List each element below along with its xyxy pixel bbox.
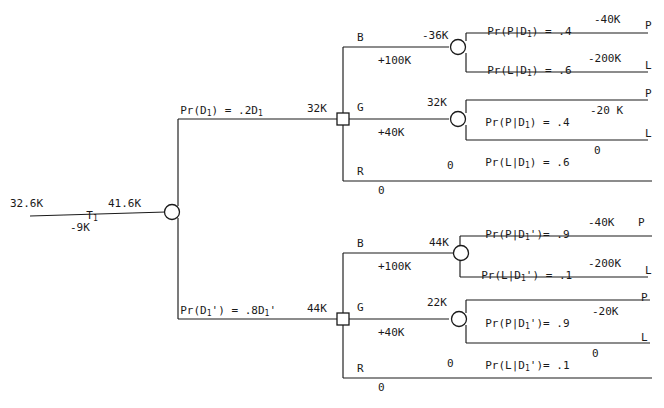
- upper-action-R-payoff: 0: [378, 185, 385, 197]
- root-left-value: 32.6K: [10, 198, 43, 210]
- upper-cn1-outcome-L-terminal: L: [645, 60, 652, 72]
- lower-cn1-outcome-L-probability: Pr(L|D1') = .1: [468, 258, 572, 282]
- lower-cn1-L-prob-suffix: ) = .1: [532, 269, 572, 282]
- upper-cn1-outcome-P-terminal: P: [645, 20, 652, 32]
- lower-action-G-label: G: [357, 302, 364, 314]
- lower-cn1-outcome-L-terminal: L: [645, 265, 652, 277]
- lower-cn1-outcome-P-terminal: P: [638, 217, 645, 229]
- lower-cn1-outcome-L-payoff: -200K: [588, 258, 621, 270]
- lower-cn2-L-prob-prefix: Pr(L|D: [485, 359, 525, 372]
- lower-cn1-P-prob-prefix: Pr(P|D: [485, 228, 525, 241]
- upper-cn2-P-prob-prefix: Pr(P|D: [485, 116, 525, 129]
- lower-action-B-label: B: [357, 238, 364, 250]
- lower-cn2-outcome-P-probability: Pr(P|D1')= .9: [472, 306, 570, 330]
- lower-prob-prefix: Pr(D: [180, 304, 207, 317]
- upper-action-G-payoff: +40K: [378, 127, 405, 139]
- upper-chance-node-B: [451, 40, 466, 55]
- lower-chance-node-G-value: 22K: [427, 297, 447, 309]
- upper-cn1-L-prob-suffix: ) = .6: [532, 64, 572, 77]
- lower-cn2-P-prob-suffix: )= .9: [536, 317, 569, 330]
- upper-cn1-outcome-L-probability: Pr(L|D1) = .6: [474, 53, 572, 77]
- lower-action-R-terminal-value: 0: [447, 358, 454, 370]
- upper-cn2-outcome-P-payoff: -20 K: [590, 105, 623, 117]
- upper-chance-node-G: [451, 112, 466, 127]
- lower-cn1-L-prob-prefix: Pr(L|D: [481, 269, 521, 282]
- root-test-cost: -9K: [70, 222, 90, 234]
- root-test-subscript: 1: [93, 214, 98, 223]
- lower-cn2-outcome-P-payoff: -20K: [592, 306, 619, 318]
- lower-cn1-outcome-P-payoff: -40K: [588, 217, 615, 229]
- root-right-value: 41.6K: [108, 198, 141, 210]
- upper-decision-node: [337, 113, 349, 125]
- upper-cn2-outcome-L-payoff: 0: [594, 145, 601, 157]
- lower-chance-node-B: [454, 246, 469, 261]
- lower-action-R-label: R: [357, 363, 364, 375]
- upper-prob-subscript-2: 1: [258, 109, 263, 118]
- lower-prob-middle: ) = .8D: [218, 304, 264, 317]
- lower-decision-value: 44K: [307, 303, 327, 315]
- upper-action-R-terminal-value: 0: [447, 160, 454, 172]
- upper-cn2-outcome-P-probability: Pr(P|D1) = .4: [472, 105, 570, 129]
- upper-cn1-L-prob-prefix: Pr(L|D: [487, 64, 527, 77]
- upper-action-G-label: G: [357, 102, 364, 114]
- lower-action-G-payoff: +40K: [378, 327, 405, 339]
- upper-cn2-outcome-L-probability: Pr(L|D1) = .6: [472, 145, 570, 169]
- lower-cn2-P-prob-prefix: Pr(P|D: [485, 317, 525, 330]
- lower-cn1-P-prob-suffix: )= .9: [536, 228, 569, 241]
- upper-prob-prefix: Pr(D: [180, 104, 207, 117]
- upper-chance-node-G-value: 32K: [427, 97, 447, 109]
- lower-cn2-L-prob-suffix: )= .1: [536, 359, 569, 372]
- upper-cn1-outcome-L-payoff: -200K: [588, 53, 621, 65]
- lower-action-R-payoff: 0: [378, 382, 385, 394]
- upper-cn2-L-prob-prefix: Pr(L|D: [485, 156, 525, 169]
- upper-action-B-label: B: [357, 32, 364, 44]
- upper-cn2-P-prob-suffix: ) = .4: [530, 116, 570, 129]
- upper-cn2-outcome-L-terminal: L: [645, 128, 652, 140]
- upper-cn1-P-prob-prefix: Pr(P|D: [487, 25, 527, 38]
- root-chance-node: [165, 205, 180, 220]
- upper-cn2-outcome-P-terminal: P: [645, 88, 652, 100]
- upper-action-B-payoff: +100K: [378, 55, 411, 67]
- root-branch-line: [30, 212, 166, 216]
- upper-cn1-outcome-P-payoff: -40K: [594, 14, 621, 26]
- lower-cn2-outcome-L-terminal: L: [641, 332, 648, 344]
- lower-cn2-outcome-L-payoff: 0: [592, 348, 599, 360]
- lower-cn1-outcome-P-probability: Pr(P|D1')= .9: [472, 217, 570, 241]
- upper-branch-probability-label: Pr(D1) = .2D1: [167, 93, 263, 117]
- lower-prob-prime-2: ': [269, 304, 276, 317]
- upper-cn2-L-prob-suffix: ) = .6: [530, 156, 570, 169]
- lower-action-B-payoff: +100K: [378, 261, 411, 273]
- lower-chance-node-B-value: 44K: [429, 237, 449, 249]
- root-test-label: T1: [73, 198, 98, 222]
- upper-cn1-P-prob-suffix: ) = .4: [532, 25, 572, 38]
- lower-branch-probability-label: Pr(D1') = .8D1': [167, 293, 276, 317]
- upper-decision-value: 32K: [307, 103, 327, 115]
- lower-chance-node-G: [452, 312, 467, 327]
- lower-cn2-outcome-L-probability: Pr(L|D1')= .1: [472, 348, 570, 372]
- upper-prob-middle: ) = .2D: [212, 104, 258, 117]
- lower-decision-node: [337, 313, 349, 325]
- upper-cn1-outcome-P-probability: Pr(P|D1) = .4: [474, 14, 572, 38]
- upper-action-R-label: R: [357, 166, 364, 178]
- upper-chance-node-B-value: -36K: [422, 30, 449, 42]
- lower-cn2-outcome-P-terminal: P: [641, 292, 648, 304]
